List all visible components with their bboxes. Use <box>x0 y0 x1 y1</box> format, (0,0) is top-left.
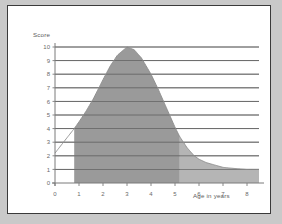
figure-frame: Score Age in years 012345678910 01234567… <box>7 5 271 214</box>
y-tick-label-4: 4 <box>47 126 51 132</box>
chart-canvas: 012345678910 012345678 <box>8 6 272 215</box>
y-tick-label-2: 2 <box>47 153 51 159</box>
plot-area: Score Age in years 012345678910 01234567… <box>8 6 270 213</box>
x-tick-label-4: 4 <box>149 191 153 197</box>
x-tick-label-0: 0 <box>53 191 57 197</box>
y-tick-label-3: 3 <box>47 139 51 145</box>
y-tick-label-7: 7 <box>47 85 51 91</box>
y-tick-labels-group: 012345678910 <box>43 44 50 186</box>
y-tick-label-5: 5 <box>47 112 51 118</box>
y-tick-label-8: 8 <box>47 71 51 77</box>
x-tick-label-1: 1 <box>77 191 81 197</box>
y-tick-label-6: 6 <box>47 99 51 105</box>
y-tick-label-0: 0 <box>47 180 51 186</box>
secondary-shaded-band <box>180 137 259 183</box>
x-tick-label-5: 5 <box>173 191 177 197</box>
x-tick-labels-group: 012345678 <box>53 191 249 197</box>
x-tick-label-3: 3 <box>125 191 129 197</box>
area-fill-group <box>55 47 259 183</box>
x-tick-label-6: 6 <box>197 191 201 197</box>
x-tick-label-8: 8 <box>245 191 249 197</box>
y-tick-label-1: 1 <box>47 167 51 173</box>
x-tick-label-2: 2 <box>101 191 105 197</box>
y-tick-label-10: 10 <box>43 44 50 50</box>
y-tick-label-9: 9 <box>47 58 51 64</box>
x-tick-label-7: 7 <box>221 191 225 197</box>
